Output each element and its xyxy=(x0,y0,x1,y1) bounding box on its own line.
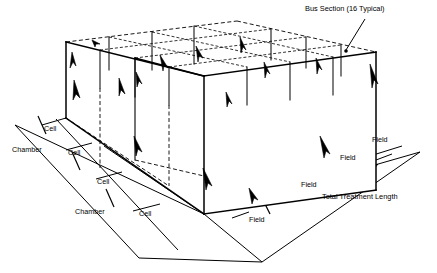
field-label-3: Field xyxy=(340,153,356,162)
bus-section-leader-line xyxy=(346,19,365,50)
field-leader-4 xyxy=(376,154,392,160)
cell-label-1: Cell xyxy=(44,124,57,133)
chamber-label-lower: Chamber xyxy=(75,207,105,216)
field-leader-1 xyxy=(232,212,249,218)
precipitator-casing xyxy=(66,21,376,214)
bus-section-label: Bus Section (16 Typical) xyxy=(305,4,385,13)
precipitator-isometric-figure: Bus Section (16 Typical) Chamber Chamber… xyxy=(0,0,437,273)
ground-plane-front-edge xyxy=(139,258,262,262)
cell-label-2: Cell xyxy=(68,148,81,157)
bus-section-leader-dot xyxy=(344,49,348,53)
field-label-2: Field xyxy=(301,180,317,189)
cell-label-3: Cell xyxy=(97,177,110,186)
field-label-1: Field xyxy=(249,215,265,224)
diagram-canvas: Bus Section (16 Typical) Chamber Chamber… xyxy=(0,0,437,273)
chamber-label-upper: Chamber xyxy=(12,145,42,154)
total-treatment-length-label: Total Treatment Length xyxy=(322,192,398,201)
field-label-4: Field xyxy=(372,135,388,144)
cell-label-4: Cell xyxy=(139,209,152,218)
chamber-tick-3 xyxy=(106,189,114,207)
